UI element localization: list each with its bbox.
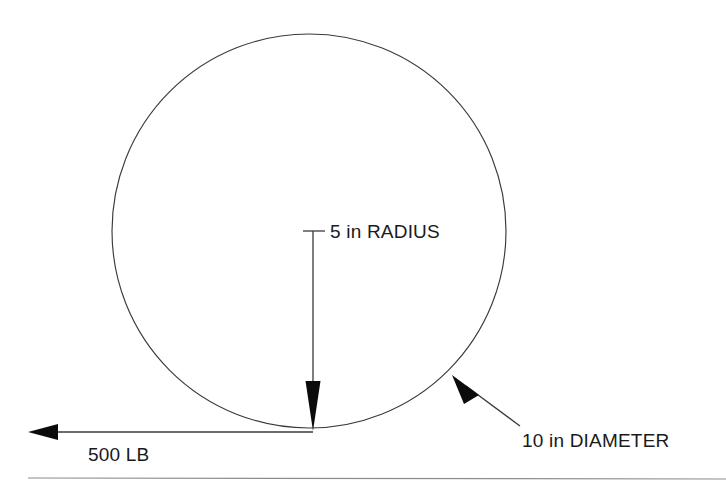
ground-line	[28, 478, 726, 479]
force-label: 500 LB	[88, 444, 149, 465]
diameter-label: 10 in DIAMETER	[522, 430, 669, 451]
radius-arrowhead-icon	[306, 381, 321, 431]
force-arrowhead-icon	[28, 424, 58, 440]
circle-load-diagram: 5 in RADIUS 500 LB 10 in DIAMETER	[0, 0, 726, 490]
diagram-canvas: 5 in RADIUS 500 LB 10 in DIAMETER	[0, 0, 726, 490]
diameter-arrowhead-icon	[452, 375, 479, 404]
radius-label: 5 in RADIUS	[330, 221, 440, 242]
